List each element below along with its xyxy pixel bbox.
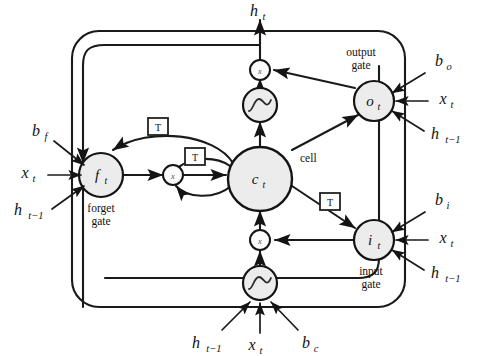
cell-caption: cell bbox=[300, 152, 317, 164]
output-gate-label-sub: t bbox=[378, 101, 381, 112]
output-input-xt-sub: t bbox=[451, 99, 455, 110]
cell-node: c t bbox=[228, 147, 292, 211]
cell-label-sub: t bbox=[263, 179, 266, 190]
multiply-forget-symbol: x bbox=[170, 171, 175, 181]
output-input-bo-label: b o bbox=[435, 52, 452, 72]
input-input-htm1-label: h t−1 bbox=[431, 264, 461, 284]
output-signal-label: h t bbox=[250, 2, 267, 22]
delay-cell-state-feedback: T bbox=[185, 148, 205, 165]
input-input-bi: b bbox=[435, 191, 443, 208]
edge-bf-to-forget-gate bbox=[54, 141, 84, 165]
lstm-diagram-root: T T T x x x c t cell f t fo bbox=[0, 0, 480, 356]
cell-input-htm1: h bbox=[192, 334, 200, 351]
cell-input-bc: b bbox=[302, 334, 310, 351]
input-input-xt-sub: t bbox=[451, 238, 455, 249]
input-input-htm1: h bbox=[431, 264, 439, 281]
activation-output-tanh bbox=[243, 88, 277, 122]
forget-input-bf-sub: f bbox=[45, 131, 50, 142]
output-gate-caption-line1: output bbox=[346, 46, 376, 59]
forget-input-xt-sub: t bbox=[33, 173, 37, 184]
delay-forget-recurrent-label: T bbox=[155, 122, 161, 133]
cell-input-htm1-sub: t−1 bbox=[206, 343, 221, 354]
forget-gate-label-sub: t bbox=[105, 175, 108, 186]
input-input-bi-label: b i bbox=[435, 191, 450, 211]
forget-input-bf: b bbox=[32, 122, 40, 139]
output-gate-label: o bbox=[366, 93, 374, 109]
edge-htm1-to-input-gate bbox=[392, 250, 424, 270]
forget-gate-caption-line1: forget bbox=[87, 202, 115, 215]
cell-input-bc-sub: c bbox=[314, 343, 319, 354]
forget-input-xt: x bbox=[20, 164, 28, 181]
multiply-output: x bbox=[250, 60, 270, 80]
output-gate-node: o t bbox=[354, 81, 394, 121]
cell-input-bc-label: b c bbox=[302, 334, 319, 354]
multiply-input: x bbox=[250, 230, 270, 250]
input-gate-caption-line2: gate bbox=[361, 278, 380, 291]
output-input-htm1-label: h t−1 bbox=[431, 125, 461, 145]
edge-cell-feedback-loop bbox=[176, 186, 231, 196]
output-signal-h: h bbox=[250, 2, 258, 19]
delay-forget-recurrent: T bbox=[148, 118, 168, 135]
delay-cell-state-feedback-label: T bbox=[192, 152, 198, 163]
input-gate-caption-line1: input bbox=[359, 265, 383, 278]
activation-cell-input-tanh bbox=[243, 266, 277, 300]
edge-output-gate-to-multiply-output bbox=[274, 70, 355, 88]
output-input-bo-sub: o bbox=[446, 61, 451, 72]
cell-input-htm1-label: h t−1 bbox=[192, 334, 222, 354]
edge-htm1-to-output-gate bbox=[392, 111, 424, 131]
input-input-bi-sub: i bbox=[447, 200, 450, 211]
forget-gate-node: f t bbox=[79, 153, 123, 197]
forget-input-xt-label: x t bbox=[20, 164, 36, 184]
edge-htm1-to-forget-gate bbox=[52, 186, 84, 209]
forget-input-htm1-sub: t−1 bbox=[28, 210, 43, 221]
output-input-xt-label: x t bbox=[438, 90, 454, 110]
input-input-xt: x bbox=[438, 229, 446, 246]
edge-bi-to-input-gate bbox=[392, 212, 425, 232]
edge-ht-recurrent-top bbox=[83, 45, 260, 163]
output-input-xt: x bbox=[438, 90, 446, 107]
output-input-htm1-sub: t−1 bbox=[445, 134, 460, 145]
forget-input-bf-label: b f bbox=[32, 122, 50, 142]
delay-input-gate-peephole-label: T bbox=[327, 197, 333, 208]
input-gate-node: i t bbox=[354, 220, 394, 260]
cell-input-xt-sub: t bbox=[260, 345, 264, 356]
input-gate-label-sub: t bbox=[378, 240, 381, 251]
output-input-bo: b bbox=[435, 52, 443, 69]
input-input-xt-label: x t bbox=[438, 229, 454, 249]
forget-gate-caption-line2: gate bbox=[91, 215, 110, 228]
output-input-htm1: h bbox=[431, 125, 439, 142]
cell-input-xt-label: x t bbox=[247, 336, 263, 356]
lstm-cell-diagram: T T T x x x c t cell f t fo bbox=[0, 0, 480, 356]
edge-bo-to-output-gate bbox=[392, 73, 425, 93]
output-gate-caption-line2: gate bbox=[351, 59, 370, 72]
input-input-htm1-sub: t−1 bbox=[445, 273, 460, 284]
forget-input-htm1: h bbox=[14, 201, 22, 218]
delay-input-gate-peephole: T bbox=[320, 193, 340, 210]
multiply-forget: x bbox=[163, 165, 183, 185]
forget-input-htm1-label: h t−1 bbox=[14, 201, 44, 221]
output-signal-sub: t bbox=[263, 11, 267, 22]
cell-input-xt: x bbox=[247, 336, 255, 353]
edge-cell-to-output-gate bbox=[292, 115, 358, 150]
multiply-input-symbol: x bbox=[257, 236, 262, 246]
multiply-output-symbol: x bbox=[257, 66, 262, 76]
cell-label: c bbox=[252, 171, 259, 187]
input-gate-label: i bbox=[368, 232, 372, 248]
